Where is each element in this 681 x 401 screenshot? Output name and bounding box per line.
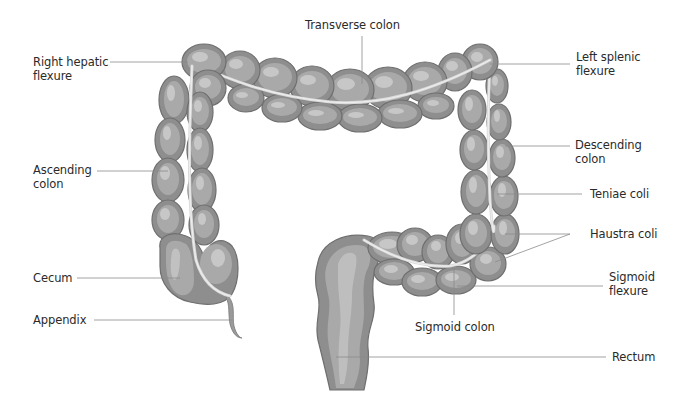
label-descending-colon: Descending colon: [575, 138, 642, 166]
label-haustra-coli: Haustra coli: [590, 227, 657, 241]
label-appendix: Appendix: [33, 313, 86, 327]
label-sigmoid-flexure: Sigmoid flexure: [609, 270, 655, 298]
label-left-splenic-flexure: Left splenic flexure: [576, 50, 640, 78]
label-transverse-colon: Transverse colon: [305, 18, 400, 32]
transverse-colon-shape: [190, 44, 498, 132]
label-sigmoid-colon: Sigmoid colon: [415, 320, 495, 334]
cecum-shape: [160, 234, 242, 338]
appendix-shape: [226, 296, 242, 338]
label-ascending-colon: Ascending colon: [33, 163, 92, 191]
label-teniae-coli: Teniae coli: [590, 187, 649, 201]
descending-colon-shape: [458, 60, 519, 254]
label-cecum: Cecum: [33, 271, 72, 285]
rectum-shape: [315, 235, 380, 390]
label-rectum: Rectum: [612, 350, 655, 364]
label-right-hepatic-flexure: Right hepatic flexure: [33, 55, 108, 83]
